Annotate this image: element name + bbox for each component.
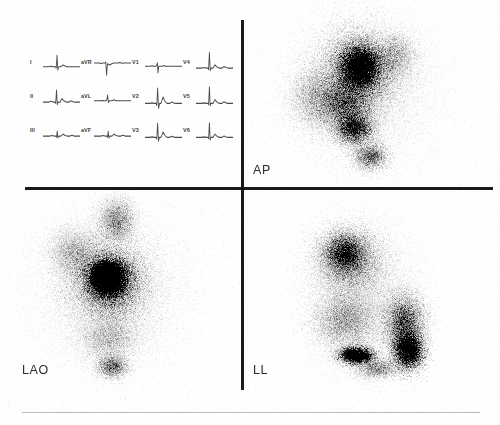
ecg-lead-label: aVF [81,128,94,133]
scintigram-canvas [244,0,500,187]
ecg-lead-iii: III [30,116,81,146]
scintigraphy-figure: IaVRV1V4IIaVLV2V5IIIaVFV3V6 AP LAO LL [0,0,500,425]
scan-view-ll [244,190,500,412]
ecg-waveform [94,49,131,77]
scintigram-canvas [244,190,500,412]
ecg-lead-label: II [30,94,43,99]
ecg-row: IIaVLV2V5 [30,82,235,112]
ecg-lead-v1: V1 [132,48,183,78]
ecg-lead-label: V5 [183,94,196,99]
horizontal-divider [25,187,493,190]
scan-view-lao [0,190,241,412]
ecg-lead-ii: II [30,82,81,112]
ecg-lead-v2: V2 [132,82,183,112]
ecg-lead-label: I [30,60,43,65]
ecg-waveform [94,117,131,145]
ecg-lead-v5: V5 [183,82,234,112]
scintigram-lao [0,190,241,412]
ecg-lead-label: aVL [81,94,94,99]
ecg-waveform [43,117,80,145]
ecg-lead-grid: IaVRV1V4IIaVLV2V5IIIaVFV3V6 [30,44,235,148]
ecg-waveform [43,83,80,111]
scintigram-ll [244,190,500,412]
ecg-lead-avf: aVF [81,116,132,146]
ecg-lead-i: I [30,48,81,78]
ecg-waveform [196,49,233,77]
ecg-row: IIIaVFV3V6 [30,116,235,146]
ecg-lead-label: III [30,128,43,133]
scintigram-ap [244,0,500,187]
ecg-lead-label: V3 [132,128,145,133]
ecg-waveform [94,83,131,111]
ecg-lead-label: aVR [81,60,94,65]
ecg-panel: IaVRV1V4IIaVLV2V5IIIaVFV3V6 [0,0,241,187]
scan-view-ap [244,0,500,187]
ecg-lead-label: V1 [132,60,145,65]
ecg-lead-label: V4 [183,60,196,65]
view-label-ll: LL [253,363,268,377]
ecg-lead-avl: aVL [81,82,132,112]
ecg-row: IaVRV1V4 [30,48,235,78]
ecg-lead-v4: V4 [183,48,234,78]
vertical-divider [241,20,244,390]
ecg-lead-v3: V3 [132,116,183,146]
ecg-waveform [196,117,233,145]
scintigram-canvas [0,190,241,412]
ecg-lead-v6: V6 [183,116,234,146]
ecg-waveform [145,83,182,111]
ecg-waveform [145,49,182,77]
footer-rule [22,412,480,413]
ecg-waveform [145,117,182,145]
ecg-lead-label: V2 [132,94,145,99]
ecg-lead-avr: aVR [81,48,132,78]
view-label-lao: LAO [22,363,49,377]
ecg-lead-label: V6 [183,128,196,133]
ecg-waveform [196,83,233,111]
ecg-waveform [43,49,80,77]
view-label-ap: AP [253,163,271,177]
